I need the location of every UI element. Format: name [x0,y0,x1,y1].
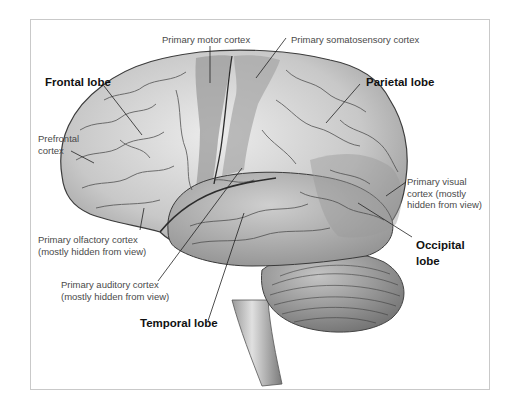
label-parietal-lobe: Parietal lobe [366,75,434,89]
label-occipital-lobe-line2: lobe [416,254,440,268]
label-prefrontal-cortex-line2: cortex [38,145,64,156]
label-primary-auditory-cortex-line2: (mostly hidden from view) [61,291,169,302]
label-primary-olfactory-cortex-line2: (mostly hidden from view) [38,246,146,257]
brain-stem [232,300,282,386]
label-temporal-lobe: Temporal lobe [140,316,218,330]
label-primary-olfactory-cortex-line1: Primary olfactory cortex [38,234,138,245]
label-frontal-lobe: Frontal lobe [45,75,111,89]
label-occipital-lobe-line1: Occipital [416,238,465,252]
label-primary-auditory-cortex-line1: Primary auditory cortex [61,279,159,290]
label-prefrontal-cortex-line1: Prefrontal [38,133,79,144]
label-primary-visual-cortex-line3: hidden from view) [407,199,482,210]
label-primary-visual-cortex-line1: Primary visual [407,176,467,187]
label-primary-motor-cortex: Primary motor cortex [162,34,250,45]
label-primary-somatosensory-cortex: Primary somatosensory cortex [291,34,419,45]
label-primary-visual-cortex-line2: cortex (mostly [407,188,466,199]
